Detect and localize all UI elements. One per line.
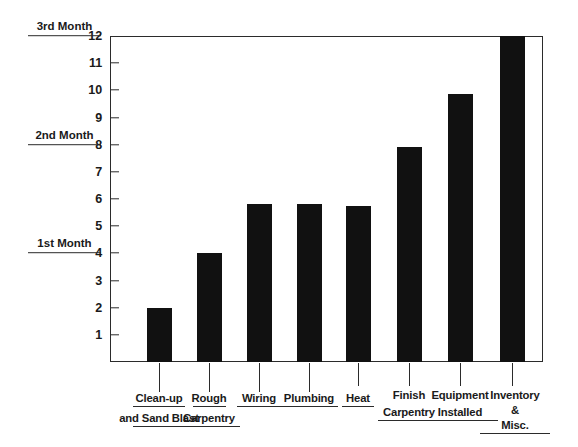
category-label-rule — [280, 406, 338, 407]
y-axis-tick-mark — [110, 198, 119, 199]
bar-chart: 123456789101112 1st Month2nd Month3rd Mo… — [0, 0, 578, 447]
y-axis-tick-mark — [110, 144, 119, 145]
category-label-line: Misc. — [480, 419, 550, 432]
y-axis-tick-mark — [110, 280, 119, 281]
leader-line — [209, 363, 210, 392]
y-axis-tick-label: 11 — [72, 57, 102, 70]
leader-line — [259, 363, 260, 392]
bar — [297, 204, 322, 362]
y-axis-tick-label: 2 — [72, 302, 102, 315]
y-axis-tick-label: 10 — [72, 84, 102, 97]
category-label-rule — [193, 406, 226, 407]
leader-line — [460, 363, 461, 386]
y-axis-tick-label: 5 — [72, 220, 102, 233]
category-label-rule — [480, 433, 550, 434]
month-marker-label: 1st Month — [28, 238, 101, 250]
y-axis-tick-label: 7 — [72, 166, 102, 179]
y-axis-tick-mark — [110, 171, 119, 172]
category-label-rule — [133, 406, 185, 407]
y-axis-tick-mark — [110, 117, 119, 118]
y-axis-tick-mark — [110, 225, 119, 226]
plot-area — [110, 36, 543, 362]
y-axis-tick-mark — [110, 253, 119, 254]
month-marker-rule — [28, 144, 101, 145]
leader-line — [358, 363, 359, 386]
bar — [500, 36, 525, 362]
y-axis-tick-mark — [110, 307, 119, 308]
month-marker-rule — [28, 253, 101, 254]
y-axis-tick-label: 3 — [72, 275, 102, 288]
month-marker-rule — [28, 35, 101, 36]
category-label-rule — [237, 406, 281, 407]
leader-line — [409, 363, 410, 386]
month-marker-label: 3rd Month — [28, 21, 101, 33]
y-axis-tick-mark — [110, 62, 119, 63]
bar — [247, 204, 272, 362]
y-axis-tick-mark — [110, 334, 119, 335]
category-label-rule — [342, 406, 374, 407]
month-marker-label: 2nd Month — [28, 130, 101, 142]
y-axis-tick-label: 6 — [72, 193, 102, 206]
category-label-line: & — [480, 404, 550, 417]
leader-line — [159, 363, 160, 392]
y-axis-tick-label: 1 — [72, 329, 102, 342]
bar — [448, 94, 473, 362]
y-axis-tick-mark — [110, 90, 119, 91]
leader-line — [512, 363, 513, 386]
category-label-rule — [178, 426, 240, 427]
leader-line — [309, 363, 310, 392]
bar — [397, 147, 422, 362]
category-label-line: Inventory — [480, 389, 550, 402]
bar — [197, 253, 222, 362]
y-axis-tick-label: 9 — [72, 112, 102, 125]
category-label-line: Carpentry — [171, 412, 247, 425]
category-label-line: Plumbing — [273, 392, 345, 405]
bar — [346, 206, 371, 362]
bar — [147, 308, 172, 362]
